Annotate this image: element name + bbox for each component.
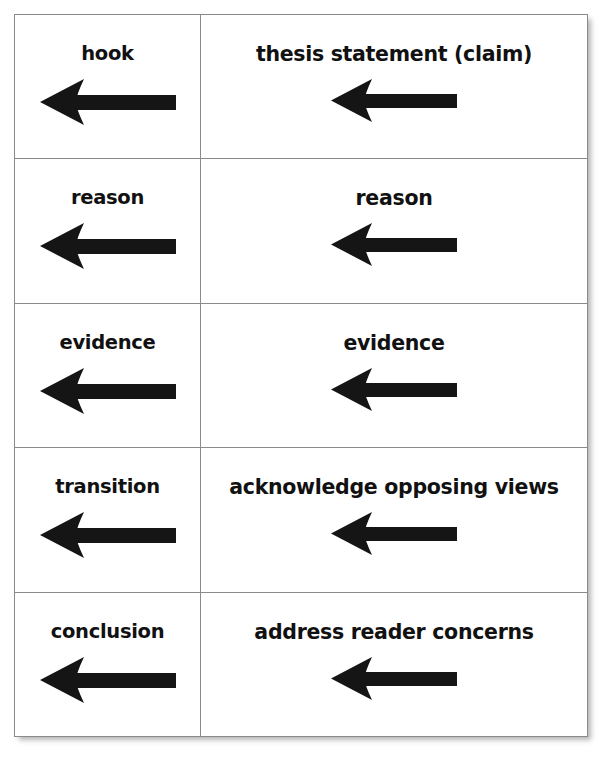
left-arrow-icon	[331, 368, 457, 411]
cell-label: hook	[81, 43, 133, 65]
left-arrow-icon	[331, 657, 457, 700]
table-row: evidence evidence	[15, 304, 587, 448]
left-arrow-icon	[331, 79, 457, 122]
left-arrow-icon	[331, 223, 457, 266]
cell-label: reason	[356, 187, 433, 209]
cell-label: transition	[55, 476, 160, 498]
table-cell-right[interactable]: evidence	[201, 304, 587, 447]
table-cell-left[interactable]: conclusion	[15, 593, 201, 736]
cell-label: evidence	[343, 332, 444, 354]
cell-label: thesis statement (claim)	[256, 43, 532, 65]
table-cell-right[interactable]: acknowledge opposing views	[201, 448, 587, 591]
left-arrow-icon	[40, 657, 176, 703]
table-cell-right[interactable]: address reader concerns	[201, 593, 587, 736]
table-cell-left[interactable]: hook	[15, 15, 201, 158]
left-arrow-icon	[40, 368, 176, 414]
table-cell-right[interactable]: reason	[201, 159, 587, 302]
table-row: hook thesis statement (claim)	[15, 15, 587, 159]
left-arrow-icon	[40, 512, 176, 558]
structure-table: hook thesis statement (claim)	[14, 14, 588, 737]
cell-label: acknowledge opposing views	[229, 476, 558, 498]
table-row: conclusion address reader concerns	[15, 593, 587, 736]
table-cell-right[interactable]: thesis statement (claim)	[201, 15, 587, 158]
table-cell-left[interactable]: evidence	[15, 304, 201, 447]
cell-label: evidence	[59, 332, 155, 354]
table-cell-left[interactable]: reason	[15, 159, 201, 302]
left-arrow-icon	[40, 223, 176, 269]
table-cell-left[interactable]: transition	[15, 448, 201, 591]
cell-label: conclusion	[51, 621, 165, 643]
left-arrow-icon	[40, 79, 176, 125]
cell-label: reason	[71, 187, 144, 209]
cell-label: address reader concerns	[254, 621, 533, 643]
left-arrow-icon	[331, 512, 457, 555]
table-row: reason reason	[15, 159, 587, 303]
table-row: transition acknowledge opposing views	[15, 448, 587, 592]
page-canvas: hook thesis statement (claim)	[0, 0, 606, 758]
